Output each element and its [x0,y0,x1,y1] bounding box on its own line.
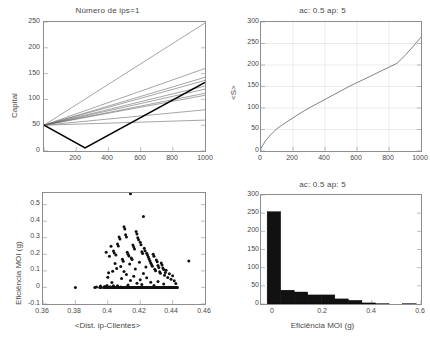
scatter-point [111,270,114,273]
scatter-point [129,193,132,195]
y-tick-50: 50 [16,120,40,127]
y-tick-50: 50 [235,281,259,288]
scatter-point [123,270,126,273]
x-axis-label: Eficiência MOI (g) [215,321,430,330]
scatter-point [168,272,171,275]
x-tick-0.4: 0.4 [359,307,383,314]
scatter-point [169,278,172,281]
y-tick-300: 300 [235,17,259,24]
x-tick-0.42: 0.42 [127,307,151,314]
y-tick-0: 0 [235,146,259,153]
y-tick-250: 250 [235,208,259,215]
plot-area [260,21,422,152]
x-tick-600: 600 [344,154,368,161]
tick-marks-group [43,205,205,304]
y-tick-0: 0 [235,299,259,306]
histogram-bar [335,299,349,304]
scatter-point [105,251,108,254]
subplot-title: Número de ips=1 [0,6,215,15]
histogram-bar [308,295,322,304]
scatter-point [129,279,132,282]
scatter-point [145,276,148,279]
plot-svg [261,22,421,151]
scatter-point [118,238,121,241]
x-tick-800: 800 [376,154,400,161]
subplot-efficiency-vs-distance: Eficiência MOI (g) [0,175,215,350]
scatter-point [139,278,142,281]
scatter-point [164,271,167,274]
x-tick-0.46: 0.46 [192,307,216,314]
subplot-title: ac: 0.5 ap: 5 [215,6,430,15]
subplot-capital-vs-time: Número de ips=1 Capital [0,0,215,175]
scatter-point [135,230,138,233]
scatter-point [138,261,141,264]
y-tick-0.1: 0.1 [16,265,40,272]
x-tick-0.44: 0.44 [159,307,183,314]
scatter-point [127,254,130,257]
scatter-point [106,276,109,279]
x-tick-600: 600 [128,154,152,161]
scatter-point [134,267,137,270]
scatter-point [149,281,152,284]
scatter-point [137,238,140,241]
y-tick-0: 0 [16,282,40,289]
subplot-efficiency-histogram: ac: 0.5 ap: 5 [215,175,430,350]
scatter-point [133,248,136,251]
plot-svg [43,193,205,304]
scatter-point [115,267,118,270]
scatter-point [125,235,128,238]
y-tick-200: 200 [16,43,40,50]
x-tick-400: 400 [312,154,336,161]
subplot-mean-S-vs-time: ac: 0.5 ap: 5 <S> [215,0,430,175]
plot-svg [44,22,205,151]
x-tick-0.6: 0.6 [408,307,430,314]
scatter-point [135,282,138,285]
y-tick-0.2: 0.2 [16,249,40,256]
plot-area [260,194,422,305]
subplot-title: ac: 0.5 ap: 5 [215,180,430,189]
histogram-bar [348,300,362,304]
x-tick-200: 200 [280,154,304,161]
scatter-point [110,281,113,284]
scatter-point [187,259,190,262]
scatter-point [123,228,126,231]
x-tick-800: 800 [160,154,184,161]
scatter-point [120,277,123,280]
scatter-point [127,283,130,286]
histogram-bars-group [267,212,416,304]
scatter-point [142,272,145,275]
histogram-bar [362,303,376,304]
scatter-point [156,260,159,263]
histogram-bar [294,292,308,304]
scatter-point [116,284,119,287]
y-tick-250: 250 [16,17,40,24]
scatter-point [144,249,147,252]
y-tick-0: 0 [16,146,40,153]
scatter-point [122,260,125,263]
scatter-point [144,265,147,268]
scatter-point [135,233,138,236]
y-tick-200: 200 [235,226,259,233]
x-tick-200: 200 [63,154,87,161]
scatter-point [114,262,117,265]
y-tick-150: 150 [235,245,259,252]
scatter-point [95,285,98,288]
y-tick-300: 300 [235,190,259,197]
scatter-point [152,284,155,287]
series-media-bold [44,82,205,147]
series-lines-group [44,23,205,148]
plot-area [43,21,206,152]
series-mean-S [261,37,421,148]
scatter-point [142,215,145,218]
y-tick-100: 100 [16,94,40,101]
scatter-point [117,245,120,248]
scatter-point [107,271,110,274]
plot-area [42,192,206,305]
x-tick-0.38: 0.38 [62,307,86,314]
y-tick-100: 100 [235,103,259,110]
figure-canvas: Número de ips=1 Capital [0,0,430,350]
tick-marks-group [44,22,205,151]
scatter-point [119,265,122,268]
x-tick-0.2: 0.2 [310,307,334,314]
scatter-point [166,276,169,279]
